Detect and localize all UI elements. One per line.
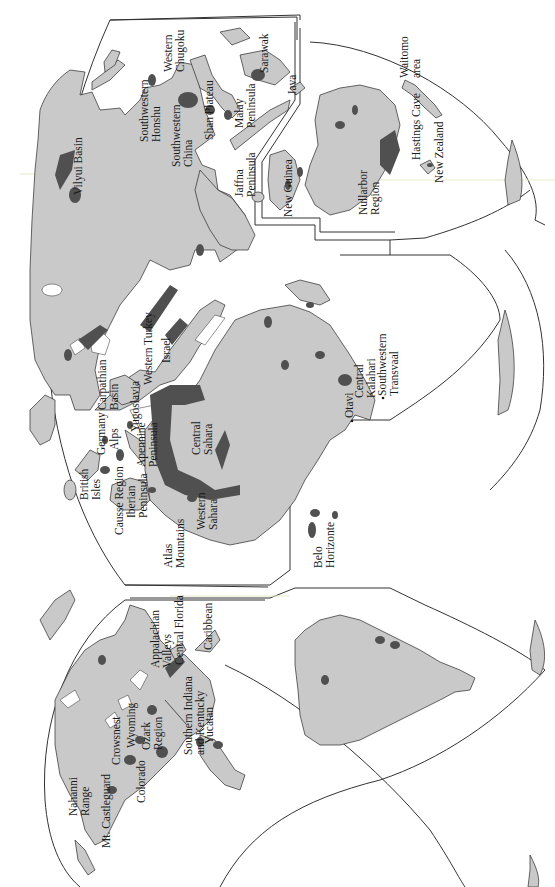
world-karst-map: Vilyui Basin SouthwesternHonshu WesternC… bbox=[0, 0, 555, 887]
label-colorado: Colorado bbox=[135, 760, 147, 803]
label-israel: Israel bbox=[160, 337, 172, 363]
sw-transvaal-marker bbox=[382, 397, 385, 400]
label-new-zealand: New Zealand bbox=[433, 121, 445, 183]
label-central-sahara: CentralSahara bbox=[190, 421, 214, 455]
label-wyoming: Wyoming bbox=[125, 702, 138, 748]
label-western-chugoku: WesternChugoku bbox=[162, 30, 187, 72]
label-carpathian-basin: CarpathianBasin bbox=[96, 359, 120, 410]
label-alps: Alps bbox=[108, 428, 121, 450]
label-crowsnest: Crowsnest bbox=[110, 716, 122, 765]
label-new-guinea: New Guinea bbox=[282, 159, 294, 217]
antarctica-landmass bbox=[498, 140, 545, 887]
otavi-marker bbox=[351, 420, 354, 423]
label-atlas-mountains: AtlasMountains bbox=[162, 518, 186, 568]
label-central-kalahari: CentralKalahari bbox=[353, 358, 377, 398]
label-caribbean: Caribbean bbox=[202, 602, 214, 650]
label-jaffna-peninsula: JaffnaPeninsula bbox=[233, 152, 257, 197]
label-central-florida: Central Florida bbox=[173, 595, 185, 665]
label-appalachian-valleys: AppalachianValleys bbox=[149, 610, 174, 668]
label-waitomo-area: Waitomoarea bbox=[398, 36, 422, 78]
label-hastings-cave: Hastings Cave bbox=[410, 93, 423, 160]
label-shan-plateau: Shan Plateau bbox=[203, 80, 215, 140]
label-yucatan: Yucatan bbox=[203, 707, 215, 744]
label-java: Java bbox=[286, 75, 298, 95]
label-mt-castleguard: Mt. Castleguard bbox=[100, 774, 113, 848]
label-malay-peninsula: MalayPeninsula bbox=[233, 83, 257, 128]
label-southwestern-transvaal: SouthwesternTransvaal bbox=[376, 333, 400, 396]
label-sarawak: Sarawak bbox=[258, 33, 270, 73]
label-germany: Germany bbox=[95, 412, 108, 455]
label-western-turkey: Western Turkey bbox=[142, 312, 155, 385]
label-vilyui-basin: Vilyui Basin bbox=[72, 137, 85, 195]
label-yugoslavia: Yugoslavia bbox=[129, 381, 142, 432]
